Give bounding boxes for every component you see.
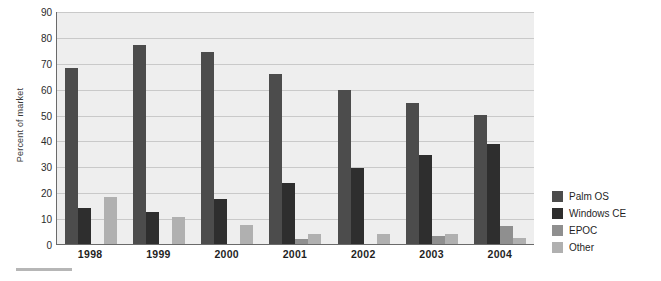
bar <box>487 144 500 244</box>
x-axis-tick-label: 2003 <box>397 248 465 264</box>
x-axis-tick-label: 2002 <box>329 248 397 264</box>
bar <box>282 183 295 244</box>
bar <box>432 236 445 244</box>
x-axis-tick-label: 2004 <box>466 248 534 264</box>
legend-swatch-icon <box>552 191 563 202</box>
x-axis-tick-label: 1998 <box>56 248 124 264</box>
bar <box>78 208 91 244</box>
legend-item[interactable]: EPOC <box>552 222 658 238</box>
bar-group <box>398 12 466 244</box>
bar <box>338 90 351 244</box>
legend-item[interactable]: Palm OS <box>552 188 658 204</box>
bar-group <box>57 12 125 244</box>
bar <box>474 115 487 244</box>
bar <box>406 103 419 244</box>
bar <box>308 234 321 244</box>
y-axis-tick-label: 20 <box>26 188 52 199</box>
legend-item-label: Windows CE <box>569 208 626 219</box>
plot-area <box>56 12 534 245</box>
y-axis-tick-labels: 0102030405060708090 <box>26 12 52 245</box>
bar-group <box>125 12 193 244</box>
legend-swatch-icon <box>552 208 563 219</box>
bar <box>295 239 308 244</box>
legend-swatch-icon <box>552 225 563 236</box>
x-axis-tick-label: 2000 <box>193 248 261 264</box>
bar <box>201 52 214 244</box>
bottom-rule <box>16 268 72 271</box>
bar <box>377 234 390 244</box>
legend-item-label: Palm OS <box>569 191 609 202</box>
legend-item-label: Other <box>569 242 594 253</box>
bar-group <box>193 12 261 244</box>
bar-group <box>466 12 534 244</box>
y-axis-tick-label: 60 <box>26 84 52 95</box>
bar <box>214 199 227 244</box>
y-axis-tick-label: 0 <box>26 240 52 251</box>
bar <box>419 155 432 244</box>
bar <box>172 217 185 244</box>
legend-item-label: EPOC <box>569 225 597 236</box>
bar <box>513 238 526 244</box>
bar <box>104 197 117 244</box>
bar-group <box>330 12 398 244</box>
bar-group <box>261 12 329 244</box>
legend-item[interactable]: Windows CE <box>552 205 658 221</box>
y-axis-tick-label: 80 <box>26 32 52 43</box>
bar <box>269 74 282 244</box>
bar <box>351 168 364 244</box>
x-axis-tick-labels: 1998199920002001200220032004 <box>56 248 534 264</box>
bar <box>240 225 253 244</box>
bar <box>445 234 458 244</box>
bar <box>146 212 159 244</box>
bar-groups <box>57 12 534 244</box>
x-axis-tick-label: 1999 <box>124 248 192 264</box>
y-axis-tick-label: 50 <box>26 110 52 121</box>
y-axis-tick-label: 90 <box>26 7 52 18</box>
y-axis-tick-label: 40 <box>26 136 52 147</box>
chart-legend: Palm OSWindows CEEPOCOther <box>552 188 658 256</box>
legend-item[interactable]: Other <box>552 239 658 255</box>
y-axis-tick-label: 70 <box>26 58 52 69</box>
bar <box>500 226 513 244</box>
bar-chart-figure: Percent of market 0102030405060708090 19… <box>0 0 661 281</box>
bar <box>65 68 78 244</box>
bar <box>133 45 146 244</box>
y-axis-tick-label: 10 <box>26 214 52 225</box>
x-axis-tick-label: 2001 <box>261 248 329 264</box>
y-axis-title-text: Percent of market <box>15 88 25 162</box>
legend-swatch-icon <box>552 242 563 253</box>
y-axis-tick-label: 30 <box>26 162 52 173</box>
